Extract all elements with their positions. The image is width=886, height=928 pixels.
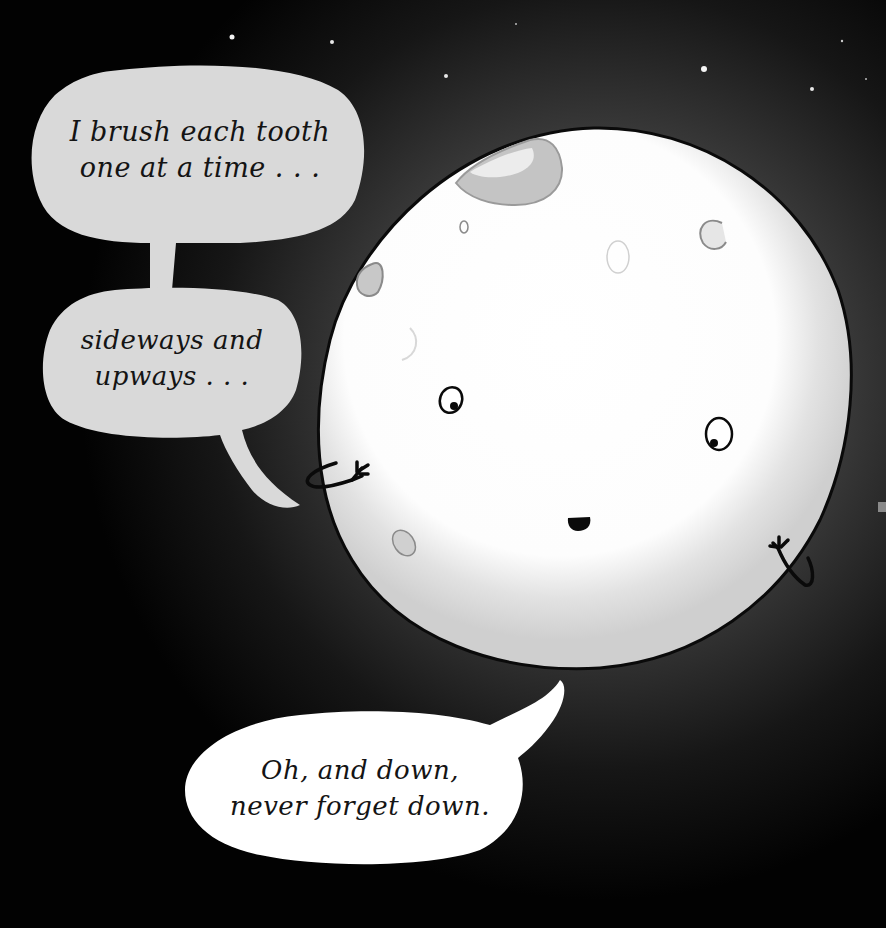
edge-mark [878, 502, 886, 512]
illustration-scene: I brush each tooth one at a time . . . s… [0, 0, 886, 928]
star-icon [330, 40, 334, 44]
bubble-3-text: Oh, and down, never forget down. [200, 752, 520, 824]
star-icon [810, 87, 814, 91]
bubble-2-line-1: sideways and [52, 322, 292, 358]
star-icon [230, 35, 235, 40]
left-pupil [450, 402, 458, 410]
right-pupil [710, 439, 718, 447]
bubble-3-line-1: Oh, and down, [200, 752, 520, 788]
bubble-1-line-1: I brush each tooth [45, 114, 355, 150]
bubble-3-line-2: never forget down. [200, 788, 520, 824]
bubble-2-line-2: upways . . . [52, 358, 292, 394]
star-icon [515, 23, 517, 25]
star-icon [701, 66, 707, 72]
bubble-1-line-2: one at a time . . . [45, 150, 355, 186]
star-icon [865, 78, 867, 80]
crater-c-shape [700, 221, 726, 249]
star-icon [841, 40, 843, 42]
right-eye [706, 418, 732, 450]
bubble-1-text: I brush each tooth one at a time . . . [45, 114, 355, 186]
star-icon [444, 74, 448, 78]
bubble-2-text: sideways and upways . . . [52, 322, 292, 394]
